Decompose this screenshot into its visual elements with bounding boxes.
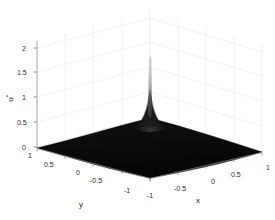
x-tick-label-4: 1	[266, 164, 270, 171]
y-axis-label: y	[79, 201, 83, 209]
y-tick-label-0: 1	[28, 152, 32, 159]
y-tick-label-2: 0	[76, 169, 80, 176]
surface-plot-canvas	[0, 0, 275, 220]
x-axis-label: x	[196, 197, 200, 205]
z-tick-label-2: 1	[22, 94, 26, 101]
z-tick-label-0: 0	[22, 144, 26, 151]
z-tick-label-1: 0.5	[17, 119, 27, 126]
z-axis-label-superscript: *	[5, 95, 11, 97]
z-axis-label-base: u	[6, 97, 15, 101]
y-tick-label-4: -1	[124, 187, 130, 194]
z-axis	[34, 41, 38, 148]
y-tick-label-3: -0.5	[90, 177, 102, 184]
x-tick-label-0: -1	[147, 192, 153, 199]
y-tick-label-1: 0.5	[44, 161, 54, 168]
x-tick-label-3: 0.5	[231, 171, 241, 178]
matlab-surface-figure: 0 0.5 1 1.5 2 1 0.5 0 -0.5 -1 -1 -0.5 0 …	[0, 0, 275, 220]
x-tick-label-2: 0	[211, 178, 215, 185]
x-tick-label-1: -0.5	[174, 185, 186, 192]
z-axis-label: u*	[5, 90, 16, 106]
z-tick-label-4: 2	[22, 45, 26, 52]
z-tick-label-3: 1.5	[17, 69, 27, 76]
